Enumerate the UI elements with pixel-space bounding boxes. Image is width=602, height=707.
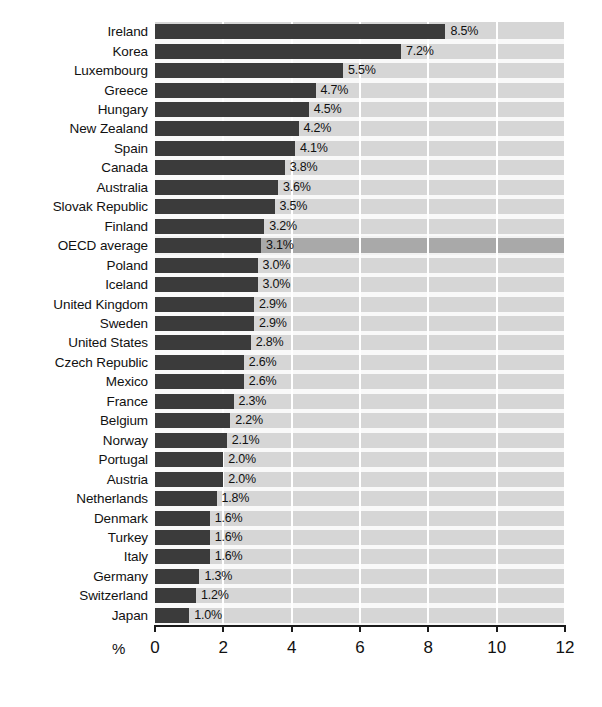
- category-label: Portugal: [0, 452, 148, 467]
- category-label: Korea: [0, 44, 148, 59]
- bar: [155, 199, 275, 214]
- bar-value-label: 4.2%: [304, 121, 332, 136]
- bar: [155, 277, 258, 292]
- category-label: New Zealand: [0, 121, 148, 136]
- bar: [155, 491, 217, 506]
- category-label: OECD average: [0, 238, 148, 253]
- bar: [155, 219, 264, 234]
- bar-value-label: 8.5%: [450, 24, 478, 39]
- bar-value-label: 2.6%: [249, 374, 277, 389]
- category-label: Poland: [0, 258, 148, 273]
- bar: [155, 608, 189, 623]
- category-label: Japan: [0, 608, 148, 623]
- bar: [155, 63, 343, 78]
- x-tick-label-12: 12: [556, 637, 575, 659]
- bar: [155, 83, 316, 98]
- bar-value-label: 7.2%: [406, 44, 434, 59]
- category-label: Sweden: [0, 316, 148, 331]
- bar-value-label: 1.6%: [215, 549, 243, 564]
- bar: [155, 452, 223, 467]
- bar: [155, 472, 223, 487]
- bar-value-label: 2.9%: [259, 316, 287, 331]
- category-label: Finland: [0, 219, 148, 234]
- bar-value-label: 4.5%: [314, 102, 342, 117]
- x-tick-label-0: 0: [150, 637, 159, 659]
- x-tick-4: [291, 625, 293, 632]
- bar-value-label: 1.6%: [215, 530, 243, 545]
- bar: [155, 355, 244, 370]
- category-label: United Kingdom: [0, 297, 148, 312]
- category-label: France: [0, 394, 148, 409]
- bar-value-label: 2.8%: [256, 335, 284, 350]
- bar: [155, 335, 251, 350]
- bar: [155, 160, 285, 175]
- bar: [155, 24, 445, 39]
- bar: [155, 413, 230, 428]
- category-label: Spain: [0, 141, 148, 156]
- bar-value-label: 3.2%: [269, 219, 297, 234]
- category-axis-labels: IrelandKoreaLuxembourgGreeceHungaryNew Z…: [0, 22, 148, 625]
- category-label: Austria: [0, 472, 148, 487]
- category-label: Switzerland: [0, 588, 148, 603]
- bar-value-label: 2.0%: [228, 452, 256, 467]
- x-tick-10: [496, 625, 498, 632]
- x-tick-label-4: 4: [287, 637, 296, 659]
- bar-value-label: 1.3%: [204, 569, 232, 584]
- bar: [155, 433, 227, 448]
- bar: [155, 44, 401, 59]
- category-label: Norway: [0, 433, 148, 448]
- bar: [155, 394, 234, 409]
- x-axis-unit-label: %: [112, 639, 125, 659]
- bar-chart: IrelandKoreaLuxembourgGreeceHungaryNew Z…: [0, 0, 602, 707]
- x-tick-label-8: 8: [424, 637, 433, 659]
- category-label: Canada: [0, 160, 148, 175]
- category-label: Slovak Republic: [0, 199, 148, 214]
- bar-value-label: 3.0%: [263, 277, 291, 292]
- x-tick-0: [154, 625, 156, 632]
- bar-value-label: 3.0%: [263, 258, 291, 273]
- bar-value-label: 2.6%: [249, 355, 277, 370]
- bar: [155, 316, 254, 331]
- bar: [155, 258, 258, 273]
- bar: [155, 238, 261, 253]
- bar-value-label: 3.5%: [280, 199, 308, 214]
- bar-value-label: 1.6%: [215, 511, 243, 526]
- x-tick-label-10: 10: [487, 637, 506, 659]
- bar-value-label: 1.2%: [201, 588, 229, 603]
- bar: [155, 569, 199, 584]
- bar: [155, 549, 210, 564]
- bar: [155, 374, 244, 389]
- x-tick-2: [222, 625, 224, 632]
- bar-value-label: 3.6%: [283, 180, 311, 195]
- x-tick-6: [359, 625, 361, 632]
- bar-value-label: 3.1%: [266, 238, 294, 253]
- category-label: Luxembourg: [0, 63, 148, 78]
- bar: [155, 141, 295, 156]
- bar-value-label: 2.0%: [228, 472, 256, 487]
- category-label: Hungary: [0, 102, 148, 117]
- bar: [155, 530, 210, 545]
- bar-value-label: 2.1%: [232, 433, 260, 448]
- bar-value-label: 4.7%: [321, 83, 349, 98]
- bar: [155, 297, 254, 312]
- bar-value-label: 5.5%: [348, 63, 376, 78]
- category-label: Netherlands: [0, 491, 148, 506]
- category-label: Germany: [0, 569, 148, 584]
- bar-value-label: 3.8%: [290, 160, 318, 175]
- bar: [155, 102, 309, 117]
- category-label: Belgium: [0, 413, 148, 428]
- bar-value-label: 4.1%: [300, 141, 328, 156]
- category-label: Ireland: [0, 24, 148, 39]
- x-tick-12: [564, 625, 566, 632]
- x-tick-label-6: 6: [355, 637, 364, 659]
- bar-value-label: 2.2%: [235, 413, 263, 428]
- bar-value-label: 1.8%: [222, 491, 250, 506]
- bar-value-label: 2.3%: [239, 394, 267, 409]
- category-label: Mexico: [0, 374, 148, 389]
- bar: [155, 180, 278, 195]
- category-label: Denmark: [0, 511, 148, 526]
- category-label: Czech Republic: [0, 355, 148, 370]
- category-label: United States: [0, 335, 148, 350]
- x-tick-label-2: 2: [219, 637, 228, 659]
- x-tick-8: [427, 625, 429, 632]
